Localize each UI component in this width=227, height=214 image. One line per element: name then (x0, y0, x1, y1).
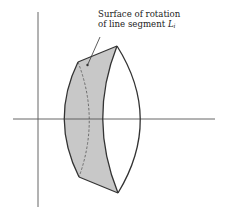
segment-subscript: i (174, 22, 176, 29)
rotation-surface-figure (0, 0, 227, 214)
diagram-canvas: Surface of rotation of line segment Li (0, 0, 227, 214)
annotation-line-1: Surface of rotation (98, 9, 180, 19)
annotation-line-2-prefix: of line segment (98, 19, 168, 29)
leader-dot (86, 64, 88, 66)
annotation-line-2: of line segment Li (98, 19, 180, 31)
lens-right-arc (117, 46, 140, 193)
annotation-label: Surface of rotation of line segment Li (98, 9, 180, 31)
